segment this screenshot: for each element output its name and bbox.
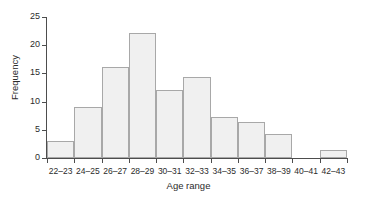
histogram-bar	[156, 90, 183, 158]
histogram-bar	[74, 107, 101, 158]
histogram-bar	[320, 150, 347, 158]
y-tick-label: 10	[18, 96, 40, 106]
x-tick-mark	[320, 159, 321, 163]
histogram-bar	[265, 134, 292, 158]
x-tick-mark	[265, 159, 266, 163]
x-axis-line	[46, 158, 348, 159]
x-tick-mark	[74, 159, 75, 163]
x-tick-mark	[156, 159, 157, 163]
y-tick-mark	[42, 158, 46, 159]
x-tick-mark	[292, 159, 293, 163]
x-tick-mark	[47, 159, 48, 163]
y-tick-mark	[42, 73, 46, 74]
y-tick-mark	[42, 102, 46, 103]
histogram-bar	[102, 67, 129, 158]
y-axis-title: Frequency	[9, 38, 20, 118]
y-tick-label: 0	[18, 152, 40, 162]
x-tick-mark	[129, 159, 130, 163]
y-tick-mark	[42, 45, 46, 46]
histogram-bar	[129, 33, 156, 158]
y-tick-label: 5	[18, 124, 40, 134]
x-tick-mark	[102, 159, 103, 163]
x-tick-mark	[238, 159, 239, 163]
x-tick-label: 42–43	[316, 166, 351, 176]
y-tick-mark	[42, 130, 46, 131]
histogram-bar	[183, 77, 210, 158]
plot-area	[47, 17, 347, 158]
y-tick-label: 20	[18, 39, 40, 49]
y-tick-label: 25	[18, 11, 40, 21]
x-tick-mark	[183, 159, 184, 163]
histogram-bar	[211, 117, 238, 158]
histogram-bar	[238, 122, 265, 158]
x-axis-title: Age range	[0, 180, 377, 191]
x-tick-mark	[347, 159, 348, 163]
y-tick-label: 15	[18, 67, 40, 77]
y-tick-mark	[42, 17, 46, 18]
histogram-chart: 0510152025 22–2324–2526–2728–2930–3132–3…	[0, 0, 377, 202]
histogram-bar	[47, 141, 74, 158]
x-tick-mark	[211, 159, 212, 163]
